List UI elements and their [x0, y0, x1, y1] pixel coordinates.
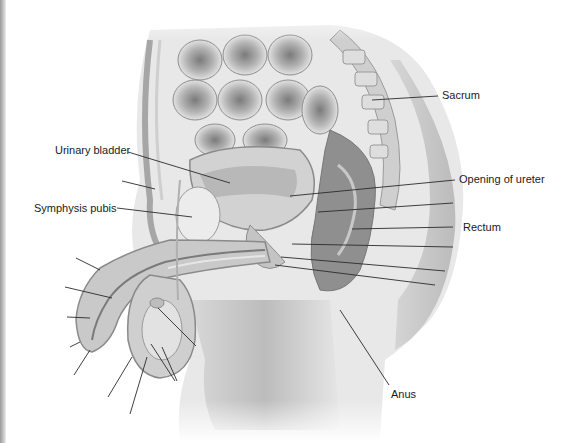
scrotum	[128, 275, 196, 378]
label-urinary-bladder: Urinary bladder	[55, 144, 130, 157]
label-rectum: Rectum	[463, 221, 501, 234]
testis	[142, 300, 182, 360]
label-symphysis-pubis: Symphysis pubis	[34, 202, 117, 215]
label-anus: Anus	[391, 388, 416, 401]
symphysis-pubis	[176, 187, 220, 243]
label-opening-of-ureter: Opening of ureter	[459, 173, 545, 186]
label-sacrum: Sacrum	[442, 89, 480, 102]
anatomy-diagram: Sacrum Urinary bladder Opening of ureter…	[0, 0, 569, 443]
